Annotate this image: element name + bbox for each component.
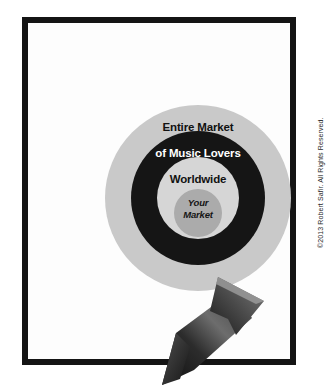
pointer-arrow-icon: [160, 273, 290, 388]
frame-inner-canvas: Entire Market of Music Lovers Worldwide …: [28, 23, 290, 359]
copyright-notice: ©2013 Robert Safir. All Rights Reserved.: [317, 243, 324, 248]
slide-surface: Entire Market of Music Lovers Worldwide …: [0, 0, 331, 389]
copyright-wrapper: ©2013 Robert Safir. All Rights Reserved.: [313, 243, 327, 363]
arrow-tail-bevel: [162, 333, 190, 385]
label-your-market-line2: Market: [183, 209, 213, 220]
label-entire-market: Entire Market: [105, 121, 291, 133]
black-picture-frame: Entire Market of Music Lovers Worldwide …: [22, 17, 296, 365]
label-your-market: Your Market: [105, 197, 291, 221]
label-your-market-line1: Your: [188, 197, 209, 208]
target-diagram: Entire Market of Music Lovers Worldwide …: [105, 105, 291, 291]
label-worldwide: Worldwide: [105, 173, 291, 185]
label-of-music-lovers: of Music Lovers: [105, 147, 291, 159]
arrow-shaft: [162, 290, 252, 385]
